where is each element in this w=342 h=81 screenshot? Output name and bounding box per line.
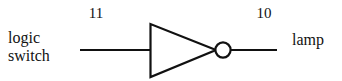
not-gate-triangle bbox=[151, 24, 217, 77]
input-device-label: logicswitch bbox=[8, 29, 50, 65]
input-device-label-line2: switch bbox=[8, 47, 50, 64]
inverter-schematic bbox=[0, 0, 342, 81]
inversion-bubble-icon bbox=[215, 42, 230, 57]
output-device-label: lamp bbox=[292, 31, 324, 49]
input-pin-number: 11 bbox=[84, 5, 108, 22]
input-device-label-line1: logic bbox=[8, 29, 40, 46]
logic-diagram-canvas: logicswitch lamp 11 10 bbox=[0, 0, 342, 81]
output-pin-number: 10 bbox=[252, 5, 276, 22]
